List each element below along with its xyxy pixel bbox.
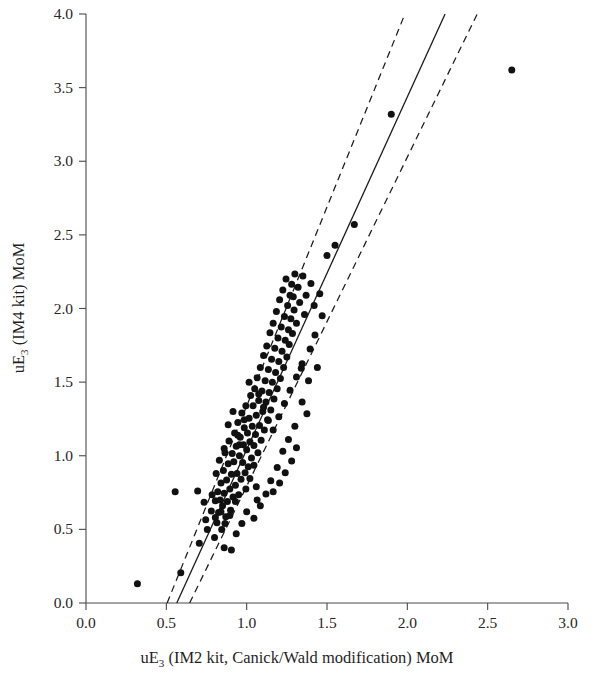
data-point	[288, 457, 295, 464]
data-point	[270, 396, 277, 403]
data-point	[262, 377, 269, 384]
y-tick-label: 3.5	[54, 79, 74, 96]
x-tick-label: 1.5	[317, 614, 337, 631]
data-point	[299, 360, 306, 367]
data-point	[257, 364, 264, 371]
data-point	[269, 379, 276, 386]
data-point	[273, 308, 280, 315]
data-point	[293, 444, 300, 451]
y-axis-title: uE3 (IM4 kit) MoM	[9, 242, 30, 373]
data-point	[279, 287, 286, 294]
x-axis-ticks: 0.00.51.01.52.02.53.0	[76, 603, 578, 631]
y-tick-label: 0.5	[54, 520, 74, 537]
data-point	[242, 485, 249, 492]
data-point	[232, 482, 239, 489]
data-point	[235, 491, 242, 498]
data-point	[299, 273, 306, 280]
data-point	[332, 242, 339, 249]
data-point	[275, 358, 282, 365]
data-point	[277, 375, 284, 382]
data-point	[270, 426, 277, 433]
data-point	[263, 343, 270, 350]
data-point	[311, 302, 318, 309]
data-point	[234, 470, 241, 477]
data-point	[293, 320, 300, 327]
data-point	[253, 483, 260, 490]
data-point	[234, 419, 241, 426]
data-point	[388, 111, 395, 118]
data-point	[226, 512, 233, 519]
data-point	[279, 448, 286, 455]
data-point	[280, 364, 287, 371]
data-point	[221, 520, 228, 527]
data-point	[290, 293, 297, 300]
data-point	[276, 296, 283, 303]
data-point	[177, 569, 184, 576]
data-point	[213, 470, 220, 477]
data-point	[301, 311, 308, 318]
data-point	[319, 312, 326, 319]
data-point	[258, 437, 265, 444]
data-point	[228, 546, 235, 553]
data-point	[254, 496, 261, 503]
data-point	[270, 320, 277, 327]
y-tick-label: 1.0	[54, 447, 74, 464]
data-point	[274, 464, 281, 471]
data-point	[253, 412, 260, 419]
data-point	[221, 490, 228, 497]
axes-group	[86, 14, 568, 603]
data-point	[221, 445, 228, 452]
data-point	[266, 389, 273, 396]
data-point	[230, 458, 237, 465]
data-point	[244, 429, 251, 436]
data-point	[257, 502, 264, 509]
data-point	[268, 356, 275, 363]
data-point	[278, 323, 285, 330]
data-point	[172, 488, 179, 495]
y-tick-label: 3.0	[54, 152, 74, 169]
data-point	[224, 498, 231, 505]
data-point	[311, 332, 318, 339]
data-point	[254, 449, 261, 456]
data-point	[254, 374, 261, 381]
data-point	[196, 540, 203, 547]
x-tick-label: 2.5	[478, 614, 498, 631]
x-tick-label: 0.0	[76, 614, 96, 631]
y-tick-label: 2.0	[54, 300, 74, 317]
data-point	[217, 508, 224, 515]
data-point	[274, 385, 281, 392]
data-point	[250, 442, 257, 449]
data-point	[250, 402, 257, 409]
data-point	[248, 454, 255, 461]
data-point	[218, 526, 225, 533]
data-point	[194, 488, 201, 495]
y-tick-label: 0.0	[54, 594, 74, 611]
data-point	[275, 413, 282, 420]
data-point	[249, 423, 256, 430]
data-point	[307, 345, 314, 352]
data-point	[220, 467, 227, 474]
data-point	[209, 491, 216, 498]
data-point	[287, 315, 294, 322]
data-point	[316, 290, 323, 297]
data-point	[289, 330, 296, 337]
data-point	[279, 348, 286, 355]
data-point	[267, 407, 274, 414]
data-point	[291, 423, 298, 430]
data-point	[202, 516, 209, 523]
data-point	[239, 459, 246, 466]
data-point	[238, 520, 245, 527]
data-point	[241, 416, 248, 423]
data-point	[299, 399, 306, 406]
data-point	[276, 479, 283, 486]
data-point	[284, 302, 291, 309]
data-point	[266, 329, 273, 336]
data-point	[255, 390, 262, 397]
y-tick-label: 4.0	[54, 5, 74, 22]
data-point	[246, 379, 253, 386]
data-point	[274, 334, 281, 341]
data-point	[288, 281, 295, 288]
data-point	[282, 469, 289, 476]
data-point	[351, 221, 358, 228]
data-point	[238, 410, 245, 417]
